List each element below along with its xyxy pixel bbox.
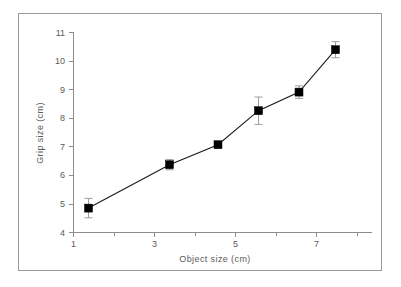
x-tick-label: 5 <box>233 239 238 249</box>
y-tick-label: 10 <box>55 56 65 66</box>
x-tick-label: 3 <box>152 239 157 249</box>
y-tick-label: 9 <box>60 85 65 95</box>
y-tick-label: 7 <box>60 142 65 152</box>
data-point-marker <box>295 88 303 96</box>
error-bars <box>85 42 340 218</box>
y-tick-label: 11 <box>56 28 65 38</box>
x-axis-tick-labels: 1 3 5 7 <box>71 239 319 249</box>
data-point-marker <box>214 141 222 149</box>
line-chart-plot: 11 10 9 8 7 6 5 4 1 3 5 7 <box>0 0 401 287</box>
data-point-marker <box>332 46 340 54</box>
y-tick-label: 8 <box>60 113 65 123</box>
y-tick-label: 6 <box>60 170 65 180</box>
data-line-grip-size <box>89 50 336 208</box>
y-axis-tick-labels: 11 10 9 8 7 6 5 4 <box>55 28 65 238</box>
x-tick-label: 7 <box>314 239 319 249</box>
data-point-marker <box>166 161 174 169</box>
data-point-marker <box>255 107 263 115</box>
x-axis-title: Object size (cm) <box>179 254 250 264</box>
y-tick-label: 4 <box>60 228 65 238</box>
y-axis-title: Grip size (cm) <box>35 102 45 164</box>
x-tick-label: 1 <box>71 239 76 249</box>
data-point-marker <box>85 204 93 212</box>
y-axis-ticks <box>69 33 74 233</box>
y-tick-label: 5 <box>60 199 65 209</box>
data-markers <box>85 46 340 212</box>
figure-canvas: 11 10 9 8 7 6 5 4 1 3 5 7 <box>0 0 401 287</box>
